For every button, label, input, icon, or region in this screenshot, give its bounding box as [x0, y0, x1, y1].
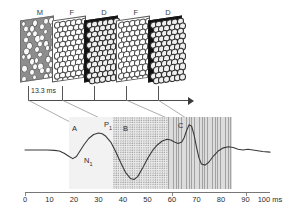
waveform-plot: A P1 B N1 C 0102030405060708090100 ms: [0, 112, 294, 212]
x-axis-tick-label: 90: [238, 195, 254, 204]
mask-blob: [22, 65, 27, 72]
frame-label-m: M: [33, 8, 47, 17]
peak-label-n1-sub: 1: [89, 161, 92, 167]
mask-blob: [22, 54, 25, 59]
timeline-tick: [126, 86, 127, 101]
x-axis-line: [25, 192, 270, 193]
mask-pattern: [21, 17, 53, 21]
stimulus-frame-dark-2: [148, 16, 182, 83]
mask-blob: [40, 68, 43, 73]
mask-blob: [33, 64, 37, 70]
mask-blob: [30, 69, 34, 75]
frame-label-f1: F: [65, 8, 79, 17]
x-axis-tick-label: 50: [140, 195, 156, 204]
peak-label-c-text: C: [178, 121, 183, 130]
stimulus-frame-figure-2: [116, 16, 150, 83]
timeline: 13.3 ms: [0, 84, 294, 110]
mask-blob: [27, 31, 30, 36]
x-axis-tick-label: 80: [213, 195, 229, 204]
timeline-tick: [94, 86, 95, 101]
frame-duration-label: 13.3 ms: [30, 87, 57, 94]
timeline-tick: [62, 86, 63, 101]
stimulus-frame-dark-1: [84, 16, 118, 83]
figure-root: M F D F D 13.3 ms: [0, 0, 294, 212]
x-axis-tick-label: 30: [91, 195, 107, 204]
peak-label-c: C: [178, 121, 183, 130]
peak-label-p1-sub: 1: [109, 125, 112, 131]
honeycomb-pattern: [53, 17, 85, 21]
x-axis-tick-label: 40: [115, 195, 131, 204]
mask-blob: [44, 18, 48, 24]
timeline-axis: [28, 100, 191, 101]
mask-blob: [22, 76, 26, 82]
frame-label-f2: F: [129, 8, 143, 17]
peak-label-a-text: A: [72, 124, 77, 133]
honeycomb-cell: [179, 73, 186, 82]
timeline-tick: [28, 86, 29, 101]
timeline-tick: [158, 86, 159, 101]
x-axis-tick-label: 10: [42, 195, 58, 204]
mask-blob: [40, 24, 44, 30]
frame-label-d2: D: [161, 8, 175, 17]
mask-blob: [33, 75, 36, 80]
mask-blob: [44, 73, 49, 80]
frame-label-d1: D: [97, 8, 111, 17]
timeline-arrow-icon: [188, 97, 194, 105]
honeycomb-pattern-dark: [149, 17, 181, 21]
stimulus-frame-figure-1: [52, 16, 86, 83]
x-axis-tick-label: 60: [164, 195, 180, 204]
peak-label-n1: N1: [84, 156, 92, 167]
mask-blob: [40, 35, 43, 40]
mask-blob: [24, 37, 27, 42]
honeycomb-pattern: [117, 17, 149, 21]
peak-label-a: A: [72, 124, 77, 133]
mask-blob: [44, 29, 47, 34]
x-axis-tick-label: 100 ms: [253, 195, 287, 204]
honeycomb-pattern-dark: [85, 17, 117, 21]
mask-blob: [35, 58, 38, 63]
x-axis-tick-label: 70: [189, 195, 205, 204]
mask-blob: [38, 41, 42, 47]
mask-blob: [38, 52, 41, 57]
mask-blob: [22, 21, 25, 26]
peak-label-b-text: B: [123, 124, 128, 133]
x-axis-tick-label: 0: [17, 195, 33, 204]
stimulus-frame-mask: [20, 16, 54, 83]
peak-label-p1: P1: [104, 120, 112, 131]
mask-blob: [46, 45, 49, 50]
peak-label-b: B: [123, 124, 128, 133]
x-axis-tick-label: 20: [66, 195, 82, 204]
